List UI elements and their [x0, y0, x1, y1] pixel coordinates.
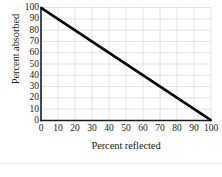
x-axis-tick-labels: 0 10 20 30 40 50 60 70 80 90 100: [0, 124, 222, 136]
bottom-divider: [0, 163, 222, 164]
x-axis-title: Percent reflected: [41, 140, 211, 151]
chart-figure: Percent absorbed 100 90 80 70 60 50 40 3…: [0, 0, 222, 177]
x-tick-label: 100: [198, 124, 222, 134]
